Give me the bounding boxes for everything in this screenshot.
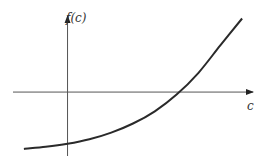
- function-curve: [24, 19, 242, 149]
- function-plot: f(c) c: [0, 0, 265, 165]
- x-axis-label: c: [247, 99, 254, 113]
- y-axis-label: f(c): [65, 11, 87, 25]
